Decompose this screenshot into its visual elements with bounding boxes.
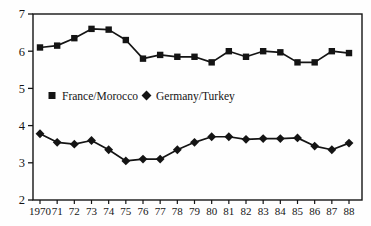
series-marker-france-morocco xyxy=(105,26,111,32)
y-axis-tick-label: 4 xyxy=(19,119,26,133)
series-marker-france-morocco xyxy=(123,37,129,43)
x-axis-tick-label: 82 xyxy=(241,205,252,217)
series-marker-france-morocco xyxy=(329,48,335,54)
x-axis-tick-label: 73 xyxy=(86,205,98,217)
y-axis-tick-label: 3 xyxy=(19,156,25,170)
series-marker-germany-turkey xyxy=(310,142,319,151)
series-marker-germany-turkey xyxy=(104,145,113,154)
legend-marker-germany-turkey xyxy=(142,91,152,101)
series-marker-germany-turkey xyxy=(156,155,165,164)
series-marker-france-morocco xyxy=(88,26,94,32)
x-axis-tick-label: 75 xyxy=(120,205,132,217)
series-marker-germany-turkey xyxy=(87,136,96,145)
series-marker-germany-turkey xyxy=(345,139,354,148)
legend-marker-france-morocco xyxy=(49,92,56,99)
x-axis-tick-label: 88 xyxy=(344,205,356,217)
series-marker-germany-turkey xyxy=(121,157,130,166)
legend-label-france-morocco: France/Morocco xyxy=(62,90,138,102)
series-marker-france-morocco xyxy=(157,52,163,58)
series-marker-france-morocco xyxy=(260,48,266,54)
series-marker-france-morocco xyxy=(277,49,283,55)
series-marker-germany-turkey xyxy=(53,138,62,147)
series-marker-france-morocco xyxy=(174,54,180,60)
series-marker-germany-turkey xyxy=(139,155,148,164)
series-marker-germany-turkey xyxy=(242,135,251,144)
x-axis-tick-label: 74 xyxy=(103,205,115,217)
x-axis-tick-label: 71 xyxy=(52,205,63,217)
x-axis-tick-label: 77 xyxy=(155,205,167,217)
chart-figure: 2345671970717273747576777879808182838485… xyxy=(0,0,371,226)
legend-label-germany-turkey: Germany/Turkey xyxy=(156,90,235,103)
x-axis-tick-label: 1970 xyxy=(29,205,52,217)
series-marker-germany-turkey xyxy=(173,145,182,154)
series-marker-germany-turkey xyxy=(36,129,45,138)
series-marker-france-morocco xyxy=(140,55,146,61)
series-marker-france-morocco xyxy=(311,59,317,65)
y-axis-tick-label: 7 xyxy=(19,7,25,21)
series-marker-france-morocco xyxy=(37,44,43,50)
series-marker-france-morocco xyxy=(294,59,300,65)
series-marker-france-morocco xyxy=(243,54,249,60)
x-axis-tick-label: 78 xyxy=(172,205,184,217)
x-axis-tick-label: 84 xyxy=(275,205,287,217)
series-marker-germany-turkey xyxy=(293,133,302,142)
x-axis-tick-label: 76 xyxy=(138,205,150,217)
plot-frame xyxy=(33,14,362,200)
series-marker-france-morocco xyxy=(226,48,232,54)
series-marker-germany-turkey xyxy=(327,145,336,154)
x-axis-tick-label: 80 xyxy=(206,205,218,217)
y-axis-tick-label: 5 xyxy=(19,82,25,96)
x-axis-tick-label: 81 xyxy=(223,205,234,217)
x-axis-tick-label: 86 xyxy=(309,205,321,217)
x-axis-tick-label: 79 xyxy=(189,205,201,217)
series-marker-germany-turkey xyxy=(190,138,199,147)
series-marker-germany-turkey xyxy=(259,134,268,143)
series-marker-france-morocco xyxy=(71,35,77,41)
series-marker-france-morocco xyxy=(191,54,197,60)
x-axis-tick-label: 85 xyxy=(292,205,304,217)
series-marker-germany-turkey xyxy=(276,134,285,143)
y-axis-tick-label: 2 xyxy=(19,193,25,207)
x-axis-tick-label: 83 xyxy=(258,205,270,217)
series-marker-france-morocco xyxy=(54,42,60,48)
series-marker-germany-turkey xyxy=(207,132,216,141)
series-marker-france-morocco xyxy=(208,59,214,65)
series-marker-germany-turkey xyxy=(70,140,79,149)
series-marker-france-morocco xyxy=(346,50,352,56)
x-axis-tick-label: 87 xyxy=(326,205,338,217)
y-axis-tick-label: 6 xyxy=(19,45,25,59)
series-line-germany-turkey xyxy=(40,134,349,161)
series-marker-germany-turkey xyxy=(224,132,233,141)
x-axis-tick-label: 72 xyxy=(69,205,80,217)
chart-svg: 2345671970717273747576777879808182838485… xyxy=(0,0,371,226)
